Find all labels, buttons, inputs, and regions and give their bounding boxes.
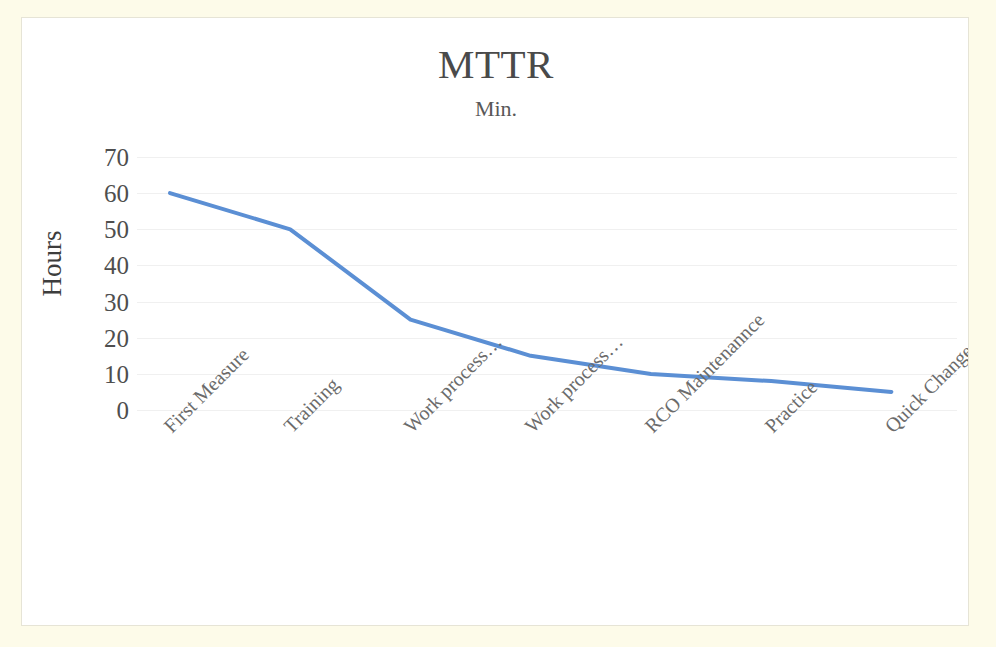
- y-tick-label: 0: [65, 398, 129, 423]
- line-series-path: [170, 193, 891, 392]
- y-tick-label: 50: [65, 217, 129, 242]
- line-series-svg: [137, 157, 957, 410]
- y-tick-label: 60: [65, 181, 129, 206]
- y-tick-label: 10: [65, 361, 129, 386]
- y-tick-label: 20: [65, 325, 129, 350]
- y-tick-label: 30: [65, 289, 129, 314]
- chart-subtitle: Min.: [22, 98, 969, 120]
- y-tick-label: 40: [65, 253, 129, 278]
- y-tick-label: 70: [65, 145, 129, 170]
- chart-title: MTTR: [22, 44, 969, 85]
- gridline: [137, 410, 957, 411]
- plot-area: [137, 157, 957, 410]
- chart-card: MTTR Min. Hours 010203040506070 First Me…: [21, 17, 969, 626]
- y-axis-tick-labels: 010203040506070: [59, 157, 129, 410]
